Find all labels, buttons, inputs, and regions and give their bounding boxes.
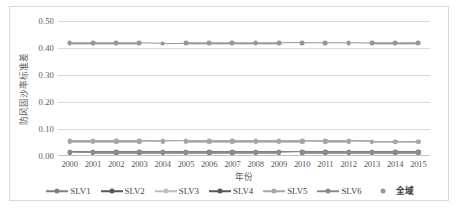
legend-item-全域[interactable]: 全域 bbox=[372, 187, 414, 196]
y-axis-tick-label: 0.40 bbox=[12, 44, 54, 53]
legend-marker-icon bbox=[326, 189, 331, 194]
x-axis-line bbox=[58, 155, 430, 156]
data-point-marker bbox=[323, 40, 328, 45]
data-point-marker bbox=[346, 40, 351, 45]
y-axis-tick-label: 0.00 bbox=[12, 152, 54, 161]
legend-swatch-icon bbox=[317, 187, 339, 196]
data-point-marker bbox=[230, 41, 235, 46]
series-line-segment bbox=[93, 42, 116, 43]
data-point-marker bbox=[114, 41, 119, 46]
legend-label: SLV3 bbox=[179, 187, 199, 196]
series-line-segment bbox=[256, 42, 279, 43]
legend-label: SLV6 bbox=[341, 187, 361, 196]
data-point-marker bbox=[276, 41, 281, 46]
series-line-segment bbox=[279, 42, 302, 44]
legend-label: SLV5 bbox=[287, 187, 307, 196]
series-line-segment bbox=[163, 42, 186, 44]
data-point-marker bbox=[183, 41, 188, 46]
legend-item-SLV4[interactable]: SLV4 bbox=[209, 187, 253, 196]
legend-swatch-icon bbox=[101, 187, 123, 196]
legend-item-SLV5[interactable]: SLV5 bbox=[263, 187, 307, 196]
legend-swatch-icon bbox=[263, 187, 285, 196]
series-line-segment bbox=[139, 42, 162, 44]
data-point-marker bbox=[253, 41, 258, 46]
legend-marker-icon bbox=[272, 189, 277, 194]
plot-area bbox=[58, 21, 430, 156]
data-point-marker bbox=[207, 41, 212, 46]
legend-marker-icon bbox=[380, 189, 385, 194]
y-axis-tick-label: 0.20 bbox=[12, 98, 54, 107]
y-axis-tick-label: 0.30 bbox=[12, 71, 54, 80]
y-axis-tick-labels: 0.500.400.300.200.100.00 bbox=[10, 21, 54, 156]
y-axis-tick-label: 0.50 bbox=[12, 17, 54, 26]
legend-swatch-icon bbox=[209, 187, 231, 196]
series-line-segment bbox=[395, 42, 418, 43]
legend-swatch-icon bbox=[372, 187, 394, 196]
legend-item-SLV6[interactable]: SLV6 bbox=[317, 187, 361, 196]
legend-swatch-icon bbox=[155, 187, 177, 196]
legend-label: SLV2 bbox=[125, 187, 145, 196]
series-line-segment bbox=[209, 42, 232, 43]
legend-item-SLV2[interactable]: SLV2 bbox=[101, 187, 145, 196]
data-point-marker bbox=[137, 41, 142, 46]
legend-marker-icon bbox=[55, 189, 60, 194]
legend-marker-icon bbox=[163, 189, 168, 194]
legend-label: SLV4 bbox=[233, 187, 253, 196]
series-全域 bbox=[58, 21, 430, 156]
legend-label: SLV1 bbox=[70, 187, 90, 196]
legend-marker-icon bbox=[109, 189, 114, 194]
data-point-marker bbox=[416, 41, 421, 46]
data-point-marker bbox=[300, 40, 305, 45]
series-line-segment bbox=[349, 42, 372, 44]
data-point-marker bbox=[90, 41, 95, 46]
series-line-segment bbox=[325, 42, 348, 43]
data-point-marker bbox=[369, 41, 374, 46]
chart-legend: SLV1SLV2SLV3SLV4SLV5SLV6全域 bbox=[10, 183, 450, 199]
legend-item-SLV3[interactable]: SLV3 bbox=[155, 187, 199, 196]
data-point-marker bbox=[393, 41, 398, 46]
series-line-segment bbox=[372, 42, 395, 43]
series-line-segment bbox=[70, 42, 93, 43]
chart-container: 防风固沙率标准差 0.500.400.300.200.100.00 200020… bbox=[9, 6, 449, 201]
series-line-segment bbox=[116, 42, 139, 43]
series-line-segment bbox=[302, 42, 325, 43]
data-point-marker bbox=[160, 41, 165, 46]
legend-label: 全域 bbox=[396, 187, 414, 196]
legend-swatch-icon bbox=[46, 187, 68, 196]
data-point-marker bbox=[67, 41, 72, 46]
legend-item-SLV1[interactable]: SLV1 bbox=[46, 187, 90, 196]
series-line-segment bbox=[186, 42, 209, 43]
legend-marker-icon bbox=[218, 189, 223, 194]
y-axis-tick-label: 0.10 bbox=[12, 125, 54, 134]
x-axis-title: 年份 bbox=[58, 170, 430, 182]
series-line-segment bbox=[232, 42, 255, 43]
